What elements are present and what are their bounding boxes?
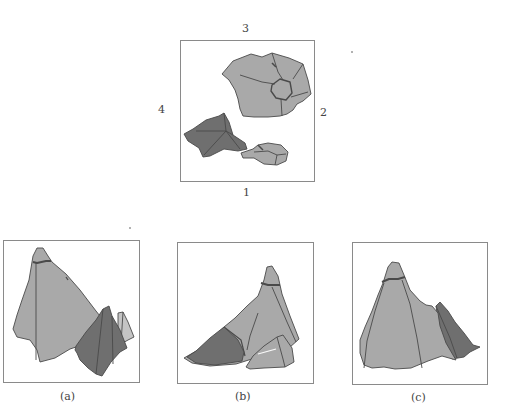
top-small-rock [241,143,288,165]
panel-b-rocks [184,266,299,369]
rock-illustrations [0,0,518,415]
panel-a-rocks [13,248,134,376]
top-dark-rock [184,113,247,157]
panel-c-rocks [360,262,480,369]
top-large-rock [222,53,311,117]
